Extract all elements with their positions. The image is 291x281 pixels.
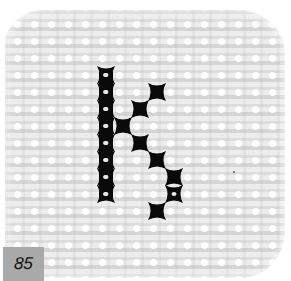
stitch-hole	[103, 90, 108, 94]
stitch-hole	[103, 175, 108, 179]
cross-stitch-letter	[0, 0, 291, 281]
cross-stitch-icon	[130, 99, 150, 119]
stitch-hole	[103, 141, 108, 145]
stitch-hole	[103, 192, 108, 196]
stitch-hole	[103, 73, 108, 77]
stitch-hole	[103, 158, 108, 162]
cross-stitch-icon	[147, 82, 167, 102]
stitch-hole	[103, 124, 108, 128]
cross-stitch-icon	[147, 201, 167, 221]
cross-stitch-icon	[164, 184, 184, 204]
stitch-hole	[103, 107, 108, 111]
